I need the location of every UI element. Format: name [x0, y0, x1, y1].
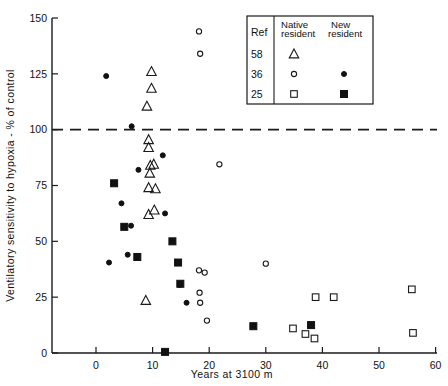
- y-tick-label: 75: [35, 179, 47, 191]
- data-point-s3-8: [107, 260, 112, 265]
- data-point-s3-7: [125, 252, 130, 257]
- data-point-s4-1: [121, 223, 128, 230]
- x-tick-label: 0: [93, 359, 99, 371]
- data-point-s0-1: [147, 83, 157, 92]
- data-point-s2-5: [409, 286, 416, 293]
- data-point-s3-9: [184, 300, 189, 305]
- x-tick-label: 50: [373, 359, 385, 371]
- y-tick-label: 25: [35, 291, 47, 303]
- data-point-s2-6: [410, 330, 417, 337]
- data-point-s4-6: [250, 323, 257, 330]
- x-tick-label: 40: [317, 359, 329, 371]
- legend-row-ref-58: 58: [251, 48, 263, 60]
- data-point-s2-1: [302, 331, 309, 338]
- data-point-s3-6: [129, 223, 134, 228]
- y-axis-title: Ventilatory sensitivity to hypoxia - % o…: [4, 69, 16, 302]
- data-point-s1-3: [196, 268, 201, 273]
- legend-header-native-2: resident: [281, 28, 315, 39]
- legend-marker-new-25: [341, 91, 348, 98]
- data-point-s0-2: [142, 101, 152, 110]
- data-point-s2-3: [312, 294, 319, 301]
- data-point-s4-4: [175, 259, 182, 266]
- y-tick-label: 150: [29, 12, 47, 24]
- legend-row-ref-25: 25: [251, 88, 263, 100]
- x-axis-title: Years at 3100 m: [191, 368, 273, 380]
- data-point-s0-12: [141, 296, 151, 305]
- data-point-s4-0: [111, 180, 118, 187]
- legend-marker-new-36: [342, 72, 347, 77]
- y-tick-label: 125: [29, 68, 47, 80]
- data-point-s4-8: [162, 348, 169, 355]
- data-point-s1-0: [196, 29, 201, 34]
- legend-row-ref-36: 36: [251, 68, 263, 80]
- y-tick-label: 50: [35, 235, 47, 247]
- data-point-s4-5: [177, 280, 184, 287]
- y-tick-label: 100: [29, 123, 47, 135]
- data-point-s3-4: [119, 201, 124, 206]
- data-point-s0-11: [150, 205, 160, 214]
- x-tick-label: 60: [430, 359, 442, 371]
- scatter-plot-svg: 02550751001251500102030405060Years at 31…: [0, 0, 448, 386]
- data-point-s3-3: [136, 167, 141, 172]
- x-tick-label: 10: [147, 359, 159, 371]
- chart-figure: 02550751001251500102030405060Years at 31…: [0, 0, 448, 386]
- data-point-s1-5: [197, 290, 202, 295]
- data-point-s2-0: [290, 325, 297, 332]
- data-point-s2-2: [311, 335, 318, 342]
- data-point-s1-6: [198, 300, 203, 305]
- data-point-s4-2: [134, 253, 141, 260]
- legend-header-ref: Ref: [251, 26, 267, 38]
- data-point-s1-8: [263, 261, 268, 266]
- data-point-s2-4: [330, 294, 337, 301]
- legend-header-new-2: resident: [328, 28, 362, 39]
- data-point-s4-7: [308, 322, 315, 329]
- data-point-s3-0: [104, 74, 109, 79]
- data-point-s0-0: [147, 67, 157, 76]
- data-point-s3-1: [129, 124, 134, 129]
- data-point-s1-7: [204, 318, 209, 323]
- data-point-s1-4: [202, 270, 207, 275]
- data-point-s3-5: [163, 211, 168, 216]
- data-point-s1-1: [198, 51, 203, 56]
- data-point-s4-3: [169, 238, 176, 245]
- data-point-s1-2: [217, 162, 222, 167]
- data-point-s3-2: [160, 153, 165, 158]
- y-tick-label: 0: [41, 347, 47, 359]
